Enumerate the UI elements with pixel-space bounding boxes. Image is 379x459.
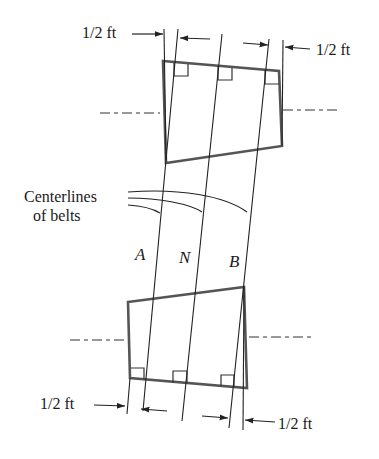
belt-label-b: B [229, 253, 239, 270]
centerlines-leaders [128, 191, 247, 213]
dimension-label-bottom-left: 1/2 ft [40, 396, 74, 412]
belt-lines [127, 29, 283, 430]
belt-label-a: A [135, 246, 145, 263]
belt-line-a [143, 29, 178, 411]
centerlines-caption: Centerlines of belts [24, 187, 97, 225]
bottom-pulley [70, 287, 313, 388]
belt-line-n [182, 34, 222, 421]
belt-diagram: 1/2 ft 1/2 ft 1/2 ft 1/2 ft Centerlines … [0, 0, 379, 459]
top-pulley [100, 61, 338, 163]
centerlines-caption-line2: of belts [24, 206, 97, 225]
centerlines-caption-line1: Centerlines [24, 187, 97, 206]
dimension-label-top-right: 1/2 ft [316, 42, 350, 58]
dimension-label-top-left: 1/2 ft [82, 25, 116, 41]
bottom-dimension-arrows [94, 405, 275, 422]
dimension-label-bottom-right: 1/2 ft [278, 416, 312, 432]
belt-line-b [229, 39, 269, 428]
diagram-drawing [0, 0, 379, 459]
belt-label-n: N [179, 249, 190, 266]
